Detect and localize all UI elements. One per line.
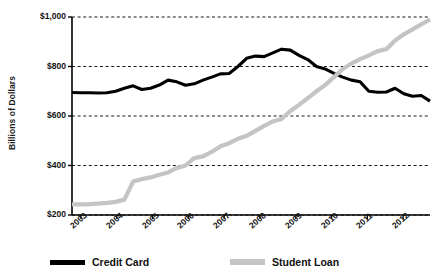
legend-item-student-loan[interactable]: Student Loan	[230, 256, 339, 268]
legend-swatch-black	[50, 260, 85, 265]
y-axis-tick-label: $1,000	[20, 11, 66, 21]
legend-swatch-gray	[230, 259, 265, 265]
y-axis-tick-labels: $200$400$600$800$1,000	[14, 0, 66, 228]
y-axis-tick-label: $200	[20, 209, 66, 219]
y-axis-tick-label: $800	[20, 61, 66, 71]
legend-item-credit-card[interactable]: Credit Card	[50, 256, 149, 268]
y-axis-tick-label: $600	[20, 110, 66, 120]
chart-legend: Credit CardStudent Loan	[0, 252, 436, 276]
y-axis-tick-label: $400	[20, 160, 66, 170]
legend-label: Credit Card	[92, 256, 149, 268]
legend-label: Student Loan	[272, 256, 339, 268]
chart-figure: Billions of Dollars $200$400$600$800$1,0…	[0, 0, 436, 278]
series-line-student-loan	[72, 19, 430, 204]
series-line-credit-card	[72, 49, 430, 101]
